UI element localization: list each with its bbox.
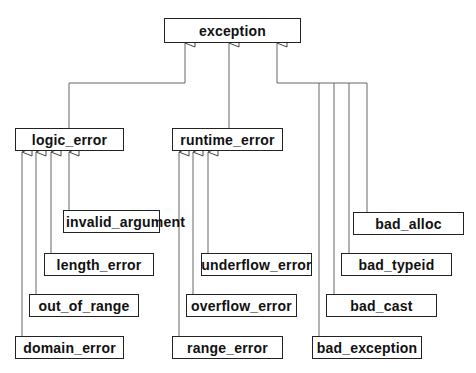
class-range-error: range_error — [172, 336, 283, 359]
class-invalid-argument: invalid_argument — [63, 210, 160, 233]
class-bad-typeid: bad_typeid — [341, 253, 452, 276]
class-overflow-error: overflow_error — [186, 294, 297, 317]
class-out-of-range: out_of_range — [29, 294, 139, 317]
class-bad-cast: bad_cast — [326, 294, 437, 317]
class-underflow-error: underflow_error — [201, 253, 312, 276]
class-length-error: length_error — [44, 253, 154, 276]
class-exception: exception — [164, 18, 301, 43]
edge-logic-error — [69, 43, 185, 128]
class-domain-error: domain_error — [15, 336, 124, 359]
class-bad-alloc: bad_alloc — [353, 212, 464, 235]
edge-bad-group — [277, 43, 367, 212]
class-runtime-error: runtime_error — [172, 128, 283, 151]
class-logic-error: logic_error — [15, 128, 124, 151]
class-bad-exception: bad_exception — [312, 336, 422, 359]
inheritance-edges — [0, 0, 476, 373]
